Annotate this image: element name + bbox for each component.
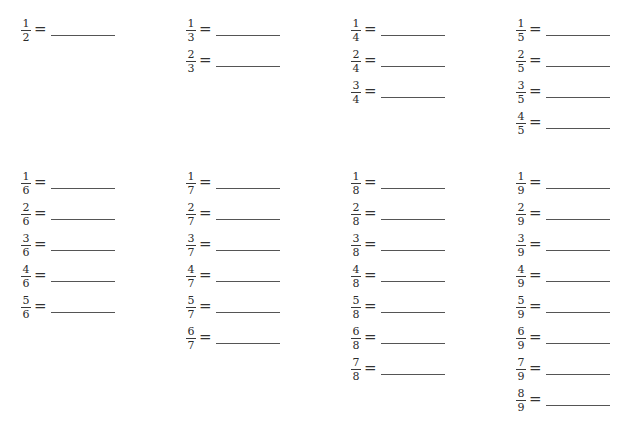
fraction: 2 3: [186, 49, 196, 74]
numerator: 3: [21, 233, 31, 244]
answer-blank[interactable]: [546, 250, 610, 251]
fraction-row: 2 5 =: [516, 49, 616, 75]
answer-blank[interactable]: [216, 312, 280, 313]
answer-blank[interactable]: [51, 219, 115, 220]
fraction: 5 9: [516, 295, 526, 320]
numerator: 2: [186, 49, 196, 60]
answer-blank[interactable]: [216, 250, 280, 251]
equals-sign: =: [529, 22, 542, 37]
fraction-row: 4 9 =: [516, 264, 616, 290]
answer-blank[interactable]: [216, 343, 280, 344]
answer-blank[interactable]: [51, 188, 115, 189]
fraction: 1 5: [516, 18, 526, 43]
fraction-row: 1 5 =: [516, 18, 616, 44]
equals-sign: =: [199, 53, 212, 68]
answer-blank[interactable]: [546, 188, 610, 189]
denominator: 6: [21, 185, 31, 196]
fraction: 2 4: [351, 49, 361, 74]
fraction-row: 2 7 =: [186, 202, 286, 228]
numerator: 4: [351, 264, 361, 275]
answer-blank[interactable]: [381, 343, 445, 344]
fraction-row: 1 2 =: [21, 18, 121, 44]
equals-sign: =: [199, 22, 212, 37]
fraction: 7 9: [516, 357, 526, 382]
equals-sign: =: [529, 299, 542, 314]
numerator: 1: [186, 171, 196, 182]
numerator: 1: [21, 18, 31, 29]
denominator: 8: [351, 185, 361, 196]
answer-blank[interactable]: [51, 312, 115, 313]
fraction-row: 4 7 =: [186, 264, 286, 290]
answer-blank[interactable]: [381, 35, 445, 36]
numerator: 5: [516, 295, 526, 306]
answer-blank[interactable]: [216, 281, 280, 282]
equals-sign: =: [199, 237, 212, 252]
equals-sign: =: [529, 175, 542, 190]
denominator: 4: [351, 63, 361, 74]
fraction: 1 4: [351, 18, 361, 43]
denominator: 6: [21, 247, 31, 258]
fraction-row: 5 7 =: [186, 295, 286, 321]
fraction-row: 2 9 =: [516, 202, 616, 228]
denominator: 6: [21, 278, 31, 289]
fraction-row: 5 9 =: [516, 295, 616, 321]
fraction: 4 9: [516, 264, 526, 289]
answer-blank[interactable]: [381, 66, 445, 67]
fraction-row: 6 9 =: [516, 326, 616, 352]
answer-blank[interactable]: [546, 281, 610, 282]
numerator: 2: [21, 202, 31, 213]
fraction: 5 8: [351, 295, 361, 320]
answer-blank[interactable]: [546, 66, 610, 67]
answer-blank[interactable]: [381, 219, 445, 220]
answer-blank[interactable]: [546, 405, 610, 406]
denominator: 6: [21, 309, 31, 320]
answer-blank[interactable]: [381, 281, 445, 282]
numerator: 1: [516, 18, 526, 29]
answer-blank[interactable]: [381, 97, 445, 98]
equals-sign: =: [364, 175, 377, 190]
answer-blank[interactable]: [51, 250, 115, 251]
numerator: 1: [351, 18, 361, 29]
denominator: 7: [186, 340, 196, 351]
answer-blank[interactable]: [381, 374, 445, 375]
fraction: 3 9: [516, 233, 526, 258]
denominator: 7: [186, 247, 196, 258]
answer-blank[interactable]: [546, 343, 610, 344]
numerator: 2: [351, 202, 361, 213]
answer-blank[interactable]: [51, 35, 115, 36]
denominator: 4: [351, 32, 361, 43]
fraction: 6 9: [516, 326, 526, 351]
equals-sign: =: [364, 268, 377, 283]
fraction: 3 6: [21, 233, 31, 258]
equals-sign: =: [364, 330, 377, 345]
answer-blank[interactable]: [216, 219, 280, 220]
denominator: 8: [351, 278, 361, 289]
equals-sign: =: [529, 206, 542, 221]
answer-blank[interactable]: [381, 312, 445, 313]
answer-blank[interactable]: [381, 188, 445, 189]
answer-blank[interactable]: [546, 97, 610, 98]
fraction: 5 7: [186, 295, 196, 320]
numerator: 1: [21, 171, 31, 182]
fraction: 7 8: [351, 357, 361, 382]
fraction: 1 6: [21, 171, 31, 196]
numerator: 6: [351, 326, 361, 337]
answer-blank[interactable]: [216, 188, 280, 189]
answer-blank[interactable]: [216, 35, 280, 36]
denominator: 8: [351, 247, 361, 258]
answer-blank[interactable]: [546, 128, 610, 129]
denominator: 3: [186, 63, 196, 74]
answer-blank[interactable]: [546, 374, 610, 375]
numerator: 1: [516, 171, 526, 182]
answer-blank[interactable]: [381, 250, 445, 251]
fraction: 2 8: [351, 202, 361, 227]
answer-blank[interactable]: [216, 66, 280, 67]
answer-blank[interactable]: [51, 281, 115, 282]
answer-blank[interactable]: [546, 219, 610, 220]
numerator: 1: [351, 171, 361, 182]
fraction: 3 5: [516, 80, 526, 105]
answer-blank[interactable]: [546, 312, 610, 313]
denominator: 9: [516, 309, 526, 320]
denominator: 7: [186, 278, 196, 289]
answer-blank[interactable]: [546, 35, 610, 36]
